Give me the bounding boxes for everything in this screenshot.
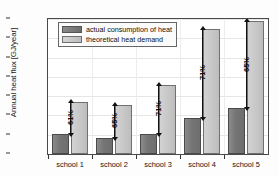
annotation-arrow-head-up: [68, 99, 74, 103]
annotation-arrow-head-up: [244, 19, 250, 22]
x-tick-label-5: school 5: [232, 160, 260, 169]
bar-actual-2: [96, 138, 113, 154]
bar-actual-1: [52, 134, 69, 154]
legend-item-theoretical: theoretical heat demand: [62, 35, 172, 44]
bar-actual-5: [228, 108, 245, 154]
bar-theoretical-4: [203, 29, 220, 154]
percentage-label-3: 71%: [154, 95, 163, 123]
x-tick-mark: [224, 155, 225, 159]
vertical-gridline: [224, 19, 225, 154]
legend-label-actual: actual consumption of heat: [86, 25, 172, 34]
x-tick-label-1: school 1: [56, 160, 84, 169]
annotation-arrow-head-down: [200, 117, 206, 121]
bar-actual-3: [140, 134, 157, 154]
percentage-label-5: 65%: [242, 50, 251, 78]
x-tick-mark: [180, 155, 181, 159]
y-tick-mark: [6, 95, 10, 96]
chart-legend: actual consumption of heat theoretical h…: [58, 22, 177, 47]
percentage-label-1: 61%: [66, 103, 75, 131]
annotation-arrow-head-up: [200, 26, 206, 30]
annotation-arrow-head-down: [244, 107, 250, 111]
y-axis-title: Annual heat flux [GJ/year]: [9, 8, 18, 138]
annotation-arrow-head-down: [112, 137, 118, 141]
y-tick-mark: [6, 133, 10, 134]
annotation-arrow-head-up: [156, 82, 162, 86]
annotation-arrow-head-down: [156, 133, 162, 137]
legend-label-theoretical: theoretical heat demand: [86, 35, 163, 44]
x-tick-mark: [48, 155, 49, 159]
percentage-annotation-5: 65%: [246, 19, 247, 154]
y-tick-mark: [6, 114, 10, 115]
bar-chart: Annual heat flux [GJ/year] 0200040006000…: [0, 0, 279, 177]
legend-swatch-theoretical: [62, 36, 82, 43]
x-tick-label-3: school 3: [144, 160, 172, 169]
bar-actual-4: [184, 118, 201, 154]
y-tick-mark: [6, 18, 10, 19]
bar-theoretical-5: [247, 21, 264, 154]
vertical-gridline: [180, 19, 181, 154]
legend-item-actual: actual consumption of heat: [62, 25, 172, 34]
legend-swatch-actual: [62, 26, 82, 33]
annotation-arrow-head-down: [68, 133, 74, 137]
y-tick-mark: [6, 56, 10, 57]
y-tick-mark: [6, 75, 10, 76]
y-tick-mark: [6, 153, 10, 154]
percentage-label-4: 71%: [198, 59, 207, 87]
x-tick-mark: [92, 155, 93, 159]
x-tick-label-4: school 4: [188, 160, 216, 169]
x-tick-mark: [136, 155, 137, 159]
percentage-label-2: 65%: [110, 107, 119, 135]
percentage-annotation-4: 71%: [202, 19, 203, 154]
y-tick-mark: [6, 37, 10, 38]
x-tick-label-2: school 2: [100, 160, 128, 169]
